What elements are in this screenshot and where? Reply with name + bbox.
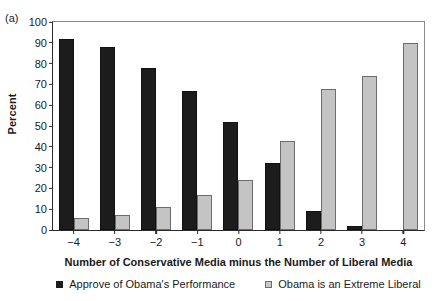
figure-panel-a: (a) Percent 0102030405060708090100 −4−3−… bbox=[0, 0, 442, 301]
y-axis-title: Percent bbox=[6, 84, 18, 144]
bar-group bbox=[94, 22, 135, 230]
x-tick-label: −4 bbox=[67, 230, 80, 248]
legend-swatch-icon bbox=[56, 281, 63, 288]
bar bbox=[141, 68, 156, 230]
bar bbox=[74, 218, 89, 230]
chart-legend: Approve of Obama's PerformanceObama is a… bbox=[52, 278, 425, 290]
bar bbox=[223, 122, 238, 230]
y-tick-label: 20 bbox=[35, 183, 53, 194]
legend-item: Approve of Obama's Performance bbox=[56, 278, 235, 290]
legend-label: Obama is an Extreme Liberal bbox=[278, 278, 420, 290]
bar-group bbox=[218, 22, 259, 230]
legend-item: Obama is an Extreme Liberal bbox=[265, 278, 420, 290]
y-tick-label: 0 bbox=[41, 225, 53, 236]
bar-group bbox=[259, 22, 300, 230]
bar bbox=[59, 39, 74, 230]
legend-swatch-icon bbox=[265, 281, 272, 288]
bar bbox=[362, 76, 377, 230]
y-tick-label: 30 bbox=[35, 162, 53, 173]
y-tick-label: 60 bbox=[35, 100, 53, 111]
y-tick-label: 80 bbox=[35, 58, 53, 69]
x-tick-label: −3 bbox=[109, 230, 122, 248]
bar bbox=[197, 195, 212, 230]
bar-group bbox=[135, 22, 176, 230]
bar bbox=[306, 211, 321, 230]
plot-area: 0102030405060708090100 −4−3−2−101234 bbox=[52, 21, 425, 231]
bar bbox=[265, 163, 280, 230]
y-tick-label: 70 bbox=[35, 79, 53, 90]
x-axis-title: Number of Conservative Media minus the N… bbox=[52, 256, 425, 268]
bar-group bbox=[342, 22, 383, 230]
bar-groups bbox=[53, 22, 424, 230]
bar-group bbox=[300, 22, 341, 230]
bar-group bbox=[53, 22, 94, 230]
x-tick-label: 1 bbox=[277, 230, 283, 248]
x-tick-label: −2 bbox=[150, 230, 163, 248]
x-tick-label: 2 bbox=[318, 230, 324, 248]
x-tick-label: 0 bbox=[235, 230, 241, 248]
bar-group bbox=[177, 22, 218, 230]
panel-letter: (a) bbox=[5, 13, 18, 24]
bar bbox=[238, 180, 253, 230]
bar bbox=[321, 89, 336, 230]
y-tick-label: 50 bbox=[35, 121, 53, 132]
x-tick-label: −1 bbox=[191, 230, 204, 248]
x-tick-label: 3 bbox=[359, 230, 365, 248]
bar bbox=[347, 226, 362, 230]
x-tick-label: 4 bbox=[400, 230, 406, 248]
bar-group bbox=[383, 22, 424, 230]
y-tick-label: 100 bbox=[29, 17, 53, 28]
legend-label: Approve of Obama's Performance bbox=[69, 278, 235, 290]
bar bbox=[156, 207, 171, 230]
bar bbox=[182, 91, 197, 230]
bar bbox=[280, 141, 295, 230]
y-tick-label: 90 bbox=[35, 37, 53, 48]
y-tick-label: 40 bbox=[35, 141, 53, 152]
bar bbox=[403, 43, 418, 230]
bar bbox=[100, 47, 115, 230]
y-tick-label: 10 bbox=[35, 204, 53, 215]
bar bbox=[115, 215, 130, 230]
